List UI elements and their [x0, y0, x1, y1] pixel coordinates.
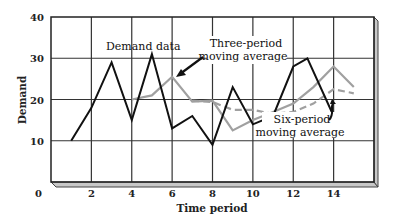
x-tick-label: 6 [169, 188, 176, 199]
x-tick-label: 10 [246, 188, 260, 199]
x-tick-label: 2 [88, 188, 95, 199]
y-tick-label: 10 [30, 136, 44, 147]
x-tick-label: 8 [209, 188, 216, 199]
x-axis-ticks: 2468101214 [88, 188, 341, 199]
x-axis-label: Time period [176, 202, 248, 214]
line-chart: 010203040 2468101214 Time period Demand … [0, 0, 398, 222]
y-tick-label: 0 [35, 188, 42, 199]
x-tick-label: 4 [128, 188, 135, 199]
y-tick-label: 40 [30, 12, 44, 23]
annotation-three-period-line2: moving average [198, 50, 287, 63]
series-line-six-period-moving-average [192, 89, 353, 114]
annotation-demand-data: Demand data [106, 40, 181, 53]
y-tick-label: 20 [30, 95, 44, 106]
y-axis-label: Demand [16, 75, 28, 124]
y-tick-label: 30 [30, 53, 44, 64]
arrow-three-period [180, 57, 203, 74]
annotation-six-period-line1: Six-period [274, 113, 331, 126]
x-tick-label: 12 [286, 188, 300, 199]
x-tick-label: 14 [327, 188, 341, 199]
y-axis-ticks: 010203040 [30, 12, 44, 199]
annotation-three-period-line1: Three-period [210, 37, 282, 50]
annotation-six-period-line2: moving average [255, 126, 344, 139]
